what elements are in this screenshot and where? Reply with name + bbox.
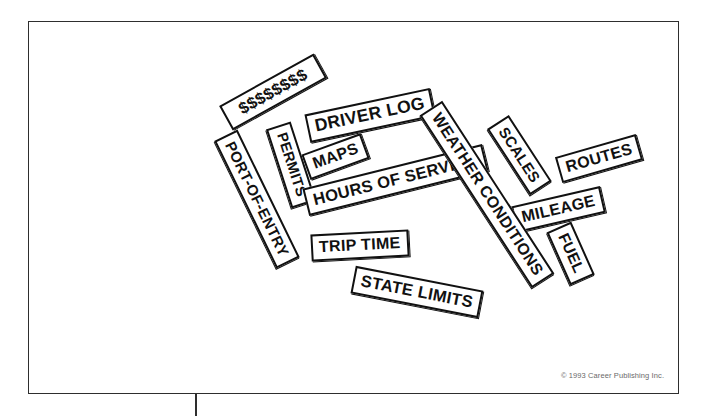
sign-trip-time: TRIP TIME [310, 229, 409, 261]
figure-canvas: $$$$$$$$ DRIVER LOG MAPS PERMITS HOURS O… [0, 0, 706, 416]
copyright-credit: © 1993 Career Publishing Inc. [561, 371, 664, 380]
figure-border-stem [195, 394, 197, 416]
sign-trip-time-label: TRIP TIME [319, 235, 401, 255]
